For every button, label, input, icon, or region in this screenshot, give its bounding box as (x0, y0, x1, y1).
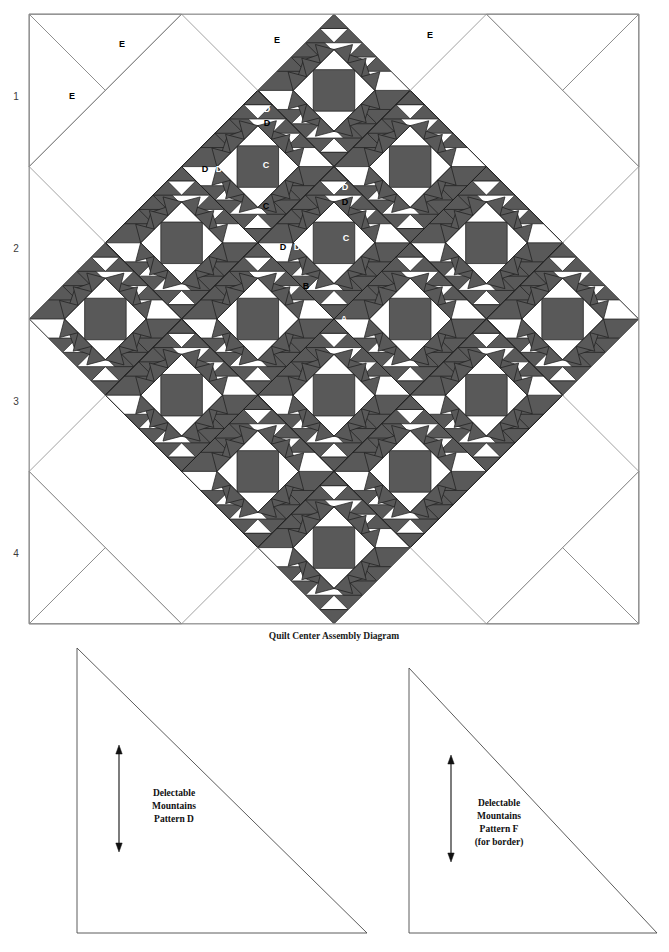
quilt-assembly-figure: 1234 Quilt Center Assembly Diagram Delec… (0, 0, 669, 952)
piece-label-E4: E (427, 30, 433, 40)
piece-label-E2: E (69, 91, 75, 101)
piece-label-D8: D (294, 242, 301, 252)
figure-caption: Quilt Center Assembly Diagram (269, 631, 400, 641)
template-label-line: Pattern D (154, 814, 194, 824)
template-label-line: Mountains (152, 801, 196, 811)
row-number-3: 3 (13, 396, 19, 407)
piece-label-E1: E (119, 39, 125, 49)
row-number-4: 4 (13, 548, 19, 559)
template-label-line: Mountains (477, 811, 521, 821)
template-label-line: (for border) (475, 837, 524, 848)
template-label-line: Delectable (153, 788, 195, 798)
piece-label-E3: E (274, 35, 280, 45)
piece-label-C3: C (343, 233, 350, 243)
template-label-line: Pattern F (480, 824, 519, 834)
piece-label-D5: D (342, 182, 349, 192)
piece-label-D4: D (216, 164, 223, 174)
piece-label-C2: C (263, 201, 270, 211)
piece-label-D1: D (264, 104, 271, 114)
row-number-1: 1 (13, 91, 19, 102)
piece-label-A: A (341, 314, 348, 324)
piece-label-D3: D (202, 164, 209, 174)
piece-label-D6: D (342, 197, 349, 207)
row-number-2: 2 (13, 243, 19, 254)
piece-label-D2: D (264, 118, 271, 128)
figure-canvas: 1234 Quilt Center Assembly Diagram Delec… (0, 0, 669, 952)
template-label-line: Delectable (478, 798, 520, 808)
piece-label-D7: D (280, 242, 287, 252)
piece-label-C1: C (263, 160, 270, 170)
piece-label-B: B (303, 281, 310, 291)
